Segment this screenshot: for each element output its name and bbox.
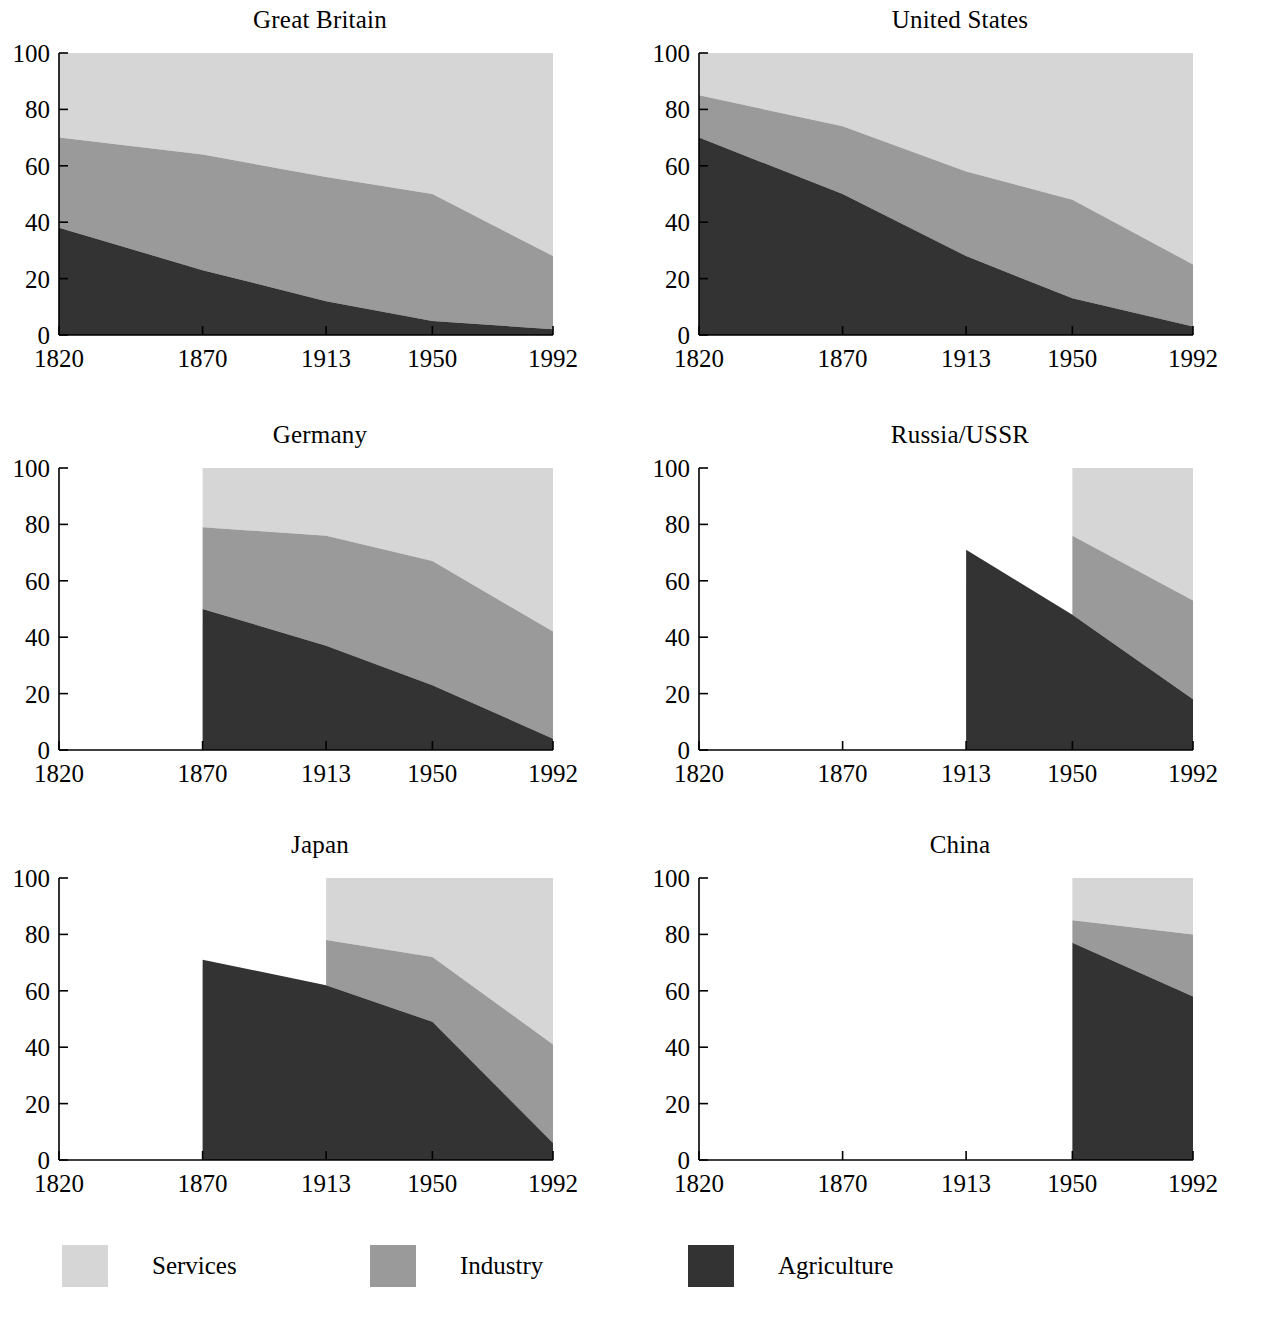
y-tick-label: 100 [653, 455, 691, 482]
y-tick-label: 20 [25, 1091, 50, 1118]
x-tick-label: 1913 [301, 1170, 351, 1197]
y-tick-label: 80 [665, 511, 690, 538]
x-tick-label: 1950 [407, 345, 457, 372]
x-tick-label: 1992 [1168, 760, 1218, 787]
plot-area: 02040608010018201870191319501992 [640, 415, 1280, 825]
y-tick-label: 60 [665, 978, 690, 1005]
x-tick-label: 1950 [407, 760, 457, 787]
x-tick-label: 1913 [941, 760, 991, 787]
y-tick-label: 60 [25, 978, 50, 1005]
plot-area: 02040608010018201870191319501992 [640, 825, 1280, 1235]
chart-panel-russia-ussr: Russia/USSR 0204060801001820187019131950… [640, 415, 1280, 825]
plot-area: 02040608010018201870191319501992 [0, 825, 640, 1235]
x-tick-label: 1870 [178, 1170, 228, 1197]
x-tick-label: 1950 [1047, 345, 1097, 372]
y-tick-label: 20 [665, 681, 690, 708]
x-tick-label: 1992 [528, 1170, 578, 1197]
y-tick-label: 20 [25, 681, 50, 708]
y-tick-label: 60 [25, 568, 50, 595]
y-tick-label: 40 [25, 1034, 50, 1061]
x-tick-label: 1870 [818, 760, 868, 787]
chart-legend: Services Industry Agriculture [0, 1243, 1280, 1303]
y-tick-label: 20 [25, 266, 50, 293]
y-tick-label: 40 [665, 209, 690, 236]
x-tick-label: 1992 [1168, 1170, 1218, 1197]
x-tick-label: 1913 [941, 345, 991, 372]
x-tick-label: 1870 [818, 345, 868, 372]
legend-swatch-industry [370, 1245, 416, 1287]
legend-label-agriculture: Agriculture [778, 1252, 893, 1280]
plot-area: 02040608010018201870191319501992 [640, 0, 1280, 410]
y-tick-label: 100 [13, 865, 51, 892]
x-tick-label: 1820 [34, 345, 84, 372]
y-tick-label: 100 [13, 40, 51, 67]
x-tick-label: 1913 [301, 760, 351, 787]
x-tick-label: 1820 [34, 760, 84, 787]
chart-panel-japan: Japan 02040608010018201870191319501992 [0, 825, 640, 1235]
y-tick-label: 60 [665, 568, 690, 595]
plot-area: 02040608010018201870191319501992 [0, 0, 640, 410]
x-tick-label: 1870 [178, 345, 228, 372]
x-tick-label: 1950 [1047, 1170, 1097, 1197]
legend-label-services: Services [152, 1252, 237, 1280]
x-tick-label: 1950 [1047, 760, 1097, 787]
y-tick-label: 40 [25, 209, 50, 236]
legend-label-industry: Industry [460, 1252, 543, 1280]
y-tick-label: 100 [13, 455, 51, 482]
y-tick-label: 80 [25, 921, 50, 948]
x-tick-label: 1913 [941, 1170, 991, 1197]
legend-entry-industry[interactable]: Industry [370, 1243, 543, 1289]
y-tick-label: 100 [653, 40, 691, 67]
y-tick-label: 80 [665, 921, 690, 948]
x-tick-label: 1820 [674, 760, 724, 787]
legend-entry-services[interactable]: Services [62, 1243, 237, 1289]
legend-swatch-agriculture [688, 1245, 734, 1287]
bottom-page-artifact [150, 1308, 1150, 1327]
y-tick-label: 60 [665, 153, 690, 180]
y-tick-label: 80 [665, 96, 690, 123]
y-tick-label: 40 [25, 624, 50, 651]
chart-panel-germany: Germany 02040608010018201870191319501992 [0, 415, 640, 825]
x-tick-label: 1870 [178, 760, 228, 787]
x-tick-label: 1992 [528, 760, 578, 787]
chart-panel-china: China 02040608010018201870191319501992 [640, 825, 1280, 1235]
x-tick-label: 1992 [1168, 345, 1218, 372]
x-tick-label: 1820 [34, 1170, 84, 1197]
y-tick-label: 20 [665, 266, 690, 293]
chart-figure: Great Britain 02040608010018201870191319… [0, 0, 1280, 1327]
legend-entry-agriculture[interactable]: Agriculture [688, 1243, 893, 1289]
y-tick-label: 80 [25, 96, 50, 123]
y-tick-label: 100 [653, 865, 691, 892]
y-tick-label: 80 [25, 511, 50, 538]
x-tick-label: 1820 [674, 1170, 724, 1197]
y-tick-label: 40 [665, 624, 690, 651]
x-tick-label: 1950 [407, 1170, 457, 1197]
y-tick-label: 40 [665, 1034, 690, 1061]
y-tick-label: 20 [665, 1091, 690, 1118]
x-tick-label: 1992 [528, 345, 578, 372]
y-tick-label: 60 [25, 153, 50, 180]
x-tick-label: 1913 [301, 345, 351, 372]
plot-area: 02040608010018201870191319501992 [0, 415, 640, 825]
legend-swatch-services [62, 1245, 108, 1287]
x-tick-label: 1870 [818, 1170, 868, 1197]
chart-panel-great-britain: Great Britain 02040608010018201870191319… [0, 0, 640, 410]
x-tick-label: 1820 [674, 345, 724, 372]
chart-panel-united-states: United States 02040608010018201870191319… [640, 0, 1280, 410]
